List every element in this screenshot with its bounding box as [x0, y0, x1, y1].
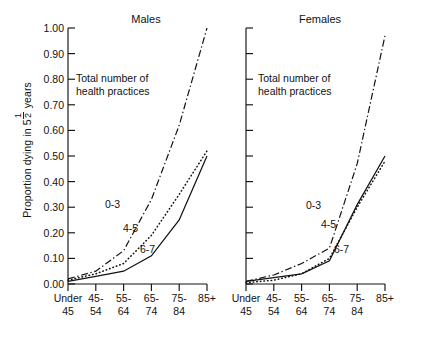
x-tick-line-2: 74 [144, 305, 159, 318]
panel-annotation-females: Total number of health practices [258, 72, 332, 98]
plot-area-females [244, 0, 386, 300]
y-tick-label: 0.50 [44, 150, 64, 162]
curve-6-7-males [68, 156, 207, 281]
y-tick-label: 0.40 [44, 176, 64, 188]
y-tick-label: 0.30 [44, 201, 64, 213]
y-tick-label: 1.00 [44, 22, 64, 34]
x-tick-line-2: 74 [322, 305, 337, 318]
curve-4-5-males [68, 151, 207, 280]
annotation-line-1: Total number of [76, 72, 150, 85]
series-label-0-3-males: 0-3 [105, 198, 120, 210]
x-tick-line-1: Under [232, 292, 261, 305]
x-tick-line-1: 85+ [376, 292, 394, 305]
x-tick-line-2: 64 [116, 305, 131, 318]
panel-annotation-males: Total number of health practices [76, 72, 150, 98]
x-tick-line-1: 65- [144, 292, 159, 305]
figure-root: Proportion dying in 512 years 0.00 0.10 … [0, 0, 425, 340]
x-tick-line-2: 45 [232, 305, 261, 318]
x-axis-ticks-males [68, 284, 207, 291]
y-axis-ticks-males [68, 28, 75, 284]
series-label-6-7-males: 6-7 [140, 243, 155, 255]
y-tick-label: 0.90 [44, 48, 64, 60]
series-label-6-7-females: 6-7 [334, 243, 349, 255]
annotation-line-1: Total number of [258, 72, 332, 85]
x-tick-label-females: Under 45 [232, 292, 261, 317]
x-tick-line-1: 75- [172, 292, 187, 305]
curve-4-5-females [246, 161, 385, 283]
y-tick-label: 0.20 [44, 227, 64, 239]
x-tick-label-males: 85+ [198, 292, 216, 305]
y-axis-tick-labels: 0.00 0.10 0.20 0.30 0.40 0.50 0.60 0.70 … [22, 0, 64, 340]
x-tick-line-2: 54 [266, 305, 281, 318]
x-tick-line-1: Under [54, 292, 83, 305]
panel-title-females: Females [244, 13, 386, 25]
series-label-4-5-males: 4-5 [123, 222, 138, 234]
x-tick-line-2: 54 [88, 305, 103, 318]
y-tick-label: 0.10 [44, 252, 64, 264]
x-tick-line-1: 45- [88, 292, 103, 305]
series-label-4-5-females: 4-5 [321, 218, 336, 230]
x-tick-label-females: 55- 64 [294, 292, 309, 317]
x-tick-line-2: 64 [294, 305, 309, 318]
x-tick-line-2: 45 [54, 305, 83, 318]
x-tick-line-1: 55- [294, 292, 309, 305]
x-tick-label-females: 75- 84 [350, 292, 365, 317]
annotation-line-2: health practices [258, 85, 332, 98]
x-tick-line-1: 85+ [198, 292, 216, 305]
x-tick-label-females: 65- 74 [322, 292, 337, 317]
curve-0-3-males [68, 28, 207, 279]
y-tick-label: 0.80 [44, 73, 64, 85]
panel-females: Females Total number of health practices… [244, 0, 386, 340]
x-tick-label-males: Under 45 [54, 292, 83, 317]
panel-males: Males Total number of health practices 0… [66, 0, 208, 340]
panel-title-males: Males [66, 13, 208, 25]
annotation-line-2: health practices [76, 85, 150, 98]
plot-area-males [66, 0, 208, 300]
x-tick-label-females: 85+ [376, 292, 394, 305]
x-tick-line-2: 84 [172, 305, 187, 318]
x-tick-label-males: 65- 74 [144, 292, 159, 317]
x-tick-label-males: 45- 54 [88, 292, 103, 317]
x-axis-ticks-females [246, 284, 385, 291]
x-tick-label-females: 45- 54 [266, 292, 281, 317]
x-tick-label-males: 75- 84 [172, 292, 187, 317]
x-tick-line-1: 45- [266, 292, 281, 305]
x-tick-line-2: 84 [350, 305, 365, 318]
x-tick-line-1: 65- [322, 292, 337, 305]
x-tick-line-1: 55- [116, 292, 131, 305]
curve-6-7-females [246, 156, 385, 281]
y-axis-ticks-females [246, 28, 253, 284]
series-label-0-3-females: 0-3 [306, 199, 321, 211]
x-tick-line-1: 75- [350, 292, 365, 305]
y-tick-label: 0.00 [44, 278, 64, 290]
x-tick-label-males: 55- 64 [116, 292, 131, 317]
y-tick-label: 0.60 [44, 124, 64, 136]
y-tick-label: 0.70 [44, 99, 64, 111]
